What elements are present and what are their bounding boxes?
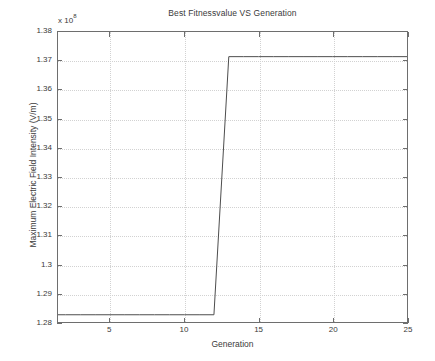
y-tick-mark-right xyxy=(403,89,408,90)
x-tick-label: 5 xyxy=(94,325,124,334)
y-tick-label: 1.34 xyxy=(2,143,52,152)
y-tick-mark xyxy=(57,294,62,295)
x-tick-mark-top xyxy=(259,32,260,37)
x-tick-mark-top xyxy=(333,32,334,37)
y-tick-mark xyxy=(57,177,62,178)
x-tick-mark xyxy=(109,318,110,323)
x-tick-mark-top xyxy=(184,32,185,37)
y-tick-mark-right xyxy=(403,206,408,207)
y-tick-mark xyxy=(57,235,62,236)
line-series-best-fitness xyxy=(58,57,407,315)
y-tick-mark xyxy=(57,265,62,266)
x-tick-label: 10 xyxy=(169,325,199,334)
x-tick-mark-top xyxy=(109,32,110,37)
y-tick-mark-right xyxy=(403,323,408,324)
chart-figure: Best Fitnessvalue VS Generation x 108 1.… xyxy=(0,0,435,361)
y-tick-label: 1.29 xyxy=(2,289,52,298)
y-tick-label: 1.33 xyxy=(2,172,52,181)
y-tick-label: 1.37 xyxy=(2,55,52,64)
data-series-layer xyxy=(58,32,407,322)
y-tick-mark xyxy=(57,323,62,324)
y-tick-label: 1.32 xyxy=(2,201,52,210)
x-axis-title: Generation xyxy=(57,339,408,349)
y-exponent-power: 8 xyxy=(73,13,76,19)
y-tick-mark xyxy=(57,206,62,207)
x-tick-label: 15 xyxy=(244,325,274,334)
y-tick-label: 1.36 xyxy=(2,84,52,93)
x-tick-mark xyxy=(259,318,260,323)
y-tick-mark-right xyxy=(403,177,408,178)
y-tick-mark-right xyxy=(403,60,408,61)
y-tick-mark-right xyxy=(403,148,408,149)
y-tick-label: 1.35 xyxy=(2,114,52,123)
y-axis-exponent-multiplier: x 108 xyxy=(58,14,76,25)
x-tick-label: 25 xyxy=(393,325,423,334)
y-tick-label: 1.28 xyxy=(2,318,52,327)
y-tick-label: 1.38 xyxy=(2,26,52,35)
y-tick-label: 1.3 xyxy=(2,260,52,269)
chart-title: Best Fitnessvalue VS Generation xyxy=(57,8,408,18)
y-tick-label: 1.31 xyxy=(2,230,52,239)
y-tick-mark-right xyxy=(403,119,408,120)
x-tick-mark xyxy=(333,318,334,323)
x-tick-mark xyxy=(184,318,185,323)
y-tick-mark xyxy=(57,119,62,120)
x-tick-mark xyxy=(408,318,409,323)
x-tick-label: 20 xyxy=(318,325,348,334)
y-tick-mark xyxy=(57,31,62,32)
y-tick-mark-right xyxy=(403,235,408,236)
y-exponent-prefix: x 10 xyxy=(58,16,73,25)
y-axis-title: Maximum Electric Field Intensity (V/m) xyxy=(28,75,38,275)
y-tick-mark-right xyxy=(403,294,408,295)
y-tick-mark xyxy=(57,89,62,90)
y-tick-mark xyxy=(57,148,62,149)
plot-area xyxy=(57,31,408,323)
y-tick-mark-right xyxy=(403,265,408,266)
x-tick-mark-top xyxy=(408,32,409,37)
y-tick-mark xyxy=(57,60,62,61)
